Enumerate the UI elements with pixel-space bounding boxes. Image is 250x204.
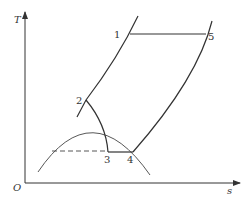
ts-diagram: T s O 1 2 3 4 5 [0, 0, 250, 204]
process-2-3 [86, 100, 108, 152]
point-3-label: 3 [104, 154, 110, 165]
process-1-2 [77, 16, 138, 117]
point-2-label: 2 [76, 95, 82, 106]
y-axis-label: T [14, 14, 22, 25]
point-5-label: 5 [208, 31, 214, 42]
x-axis-label: s [227, 185, 232, 196]
process-5-4 [133, 21, 212, 152]
origin-label: O [13, 182, 21, 193]
point-1-label: 1 [114, 29, 120, 40]
point-4-label: 4 [127, 154, 133, 165]
